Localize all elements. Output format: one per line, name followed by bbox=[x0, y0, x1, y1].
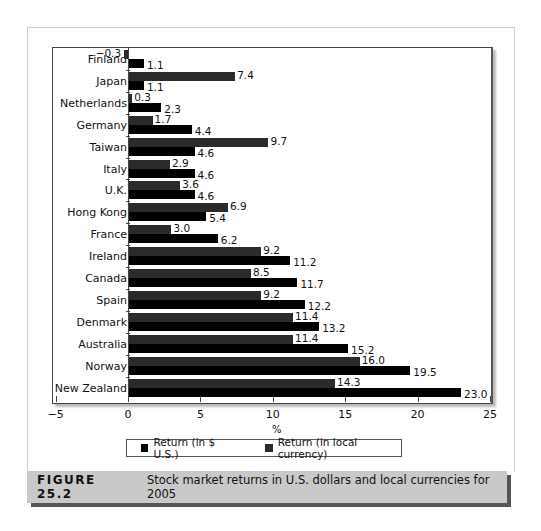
legend-item-usd: Return (in $ U.S.) bbox=[141, 436, 237, 460]
value-label-local-france: 3.0 bbox=[173, 223, 190, 233]
bar-local-australia bbox=[128, 335, 293, 344]
category-label-australia: Australia bbox=[78, 338, 127, 351]
value-label-usd-france: 6.2 bbox=[221, 235, 238, 245]
x-axis-unit: % bbox=[272, 424, 282, 435]
category-label-taiwan: Taiwan bbox=[90, 141, 127, 154]
value-label-local-new-zealand: 14.3 bbox=[337, 377, 360, 387]
value-label-local-germany: 1.7 bbox=[155, 114, 172, 124]
bar-usd-u-k bbox=[128, 190, 195, 199]
bar-usd-finland bbox=[128, 59, 144, 68]
bar-usd-italy bbox=[128, 169, 195, 178]
x-tick bbox=[200, 396, 201, 402]
legend: Return (in $ U.S.) Return (in local curr… bbox=[126, 439, 402, 457]
value-label-local-denmark: 11.4 bbox=[295, 311, 318, 321]
bar-usd-spain bbox=[128, 300, 305, 309]
x-tick-label: −5 bbox=[47, 408, 63, 421]
bar-local-germany bbox=[128, 116, 153, 125]
value-label-usd-taiwan: 4.6 bbox=[198, 148, 215, 158]
category-label-denmark: Denmark bbox=[76, 316, 127, 329]
value-label-usd-new-zealand: 23.0 bbox=[464, 389, 487, 399]
bar-local-spain bbox=[128, 291, 261, 300]
x-tick-label: 10 bbox=[266, 408, 280, 421]
category-label-france: France bbox=[90, 228, 127, 241]
value-label-usd-denmark: 13.2 bbox=[322, 323, 345, 333]
legend-swatch-local bbox=[265, 444, 272, 452]
value-label-local-norway: 16.0 bbox=[362, 355, 385, 365]
x-tick bbox=[56, 396, 57, 402]
bar-local-norway bbox=[128, 357, 360, 366]
value-label-local-taiwan: 9.7 bbox=[270, 136, 287, 146]
x-tick-label: 15 bbox=[338, 408, 352, 421]
bar-local-ireland bbox=[128, 247, 261, 256]
bar-usd-japan bbox=[128, 81, 144, 90]
value-label-local-hong-kong: 6.9 bbox=[230, 201, 247, 211]
bar-local-u-k bbox=[128, 181, 180, 190]
value-label-usd-germany: 4.4 bbox=[195, 126, 212, 136]
category-label-japan: Japan bbox=[96, 75, 127, 88]
x-tick-label: 20 bbox=[411, 408, 425, 421]
value-label-usd-norway: 19.5 bbox=[413, 367, 436, 377]
bar-local-france bbox=[128, 225, 171, 234]
value-label-local-spain: 9.2 bbox=[263, 289, 280, 299]
category-label-canada: Canada bbox=[85, 272, 127, 285]
x-tick bbox=[345, 396, 346, 402]
value-label-local-ireland: 9.2 bbox=[263, 245, 280, 255]
bar-local-italy bbox=[128, 160, 170, 169]
bar-local-taiwan bbox=[128, 138, 268, 147]
bar-usd-germany bbox=[128, 125, 192, 134]
bar-usd-canada bbox=[128, 278, 297, 287]
bar-usd-denmark bbox=[128, 322, 319, 331]
category-label-netherlands: Netherlands bbox=[60, 97, 127, 110]
value-label-local-japan: 7.4 bbox=[237, 70, 254, 80]
bar-local-japan bbox=[128, 72, 235, 81]
figure-caption: FIGURE 25.2 Stock market returns in U.S.… bbox=[27, 471, 507, 503]
category-label-norway: Norway bbox=[85, 360, 127, 373]
value-label-local-italy: 2.9 bbox=[172, 158, 189, 168]
value-label-local-australia: 11.4 bbox=[295, 333, 318, 343]
bar-usd-australia bbox=[128, 344, 348, 353]
bar-usd-hong-kong bbox=[128, 212, 206, 221]
x-tick-label: 25 bbox=[483, 408, 497, 421]
legend-label-local: Return (in local currency) bbox=[278, 436, 401, 460]
bar-usd-norway bbox=[128, 366, 410, 375]
bar-local-hong-kong bbox=[128, 203, 228, 212]
bar-local-new-zealand bbox=[128, 379, 335, 388]
legend-swatch-usd bbox=[141, 444, 148, 452]
x-tick bbox=[490, 396, 491, 402]
x-tick bbox=[273, 396, 274, 402]
bar-local-denmark bbox=[128, 313, 293, 322]
bar-usd-taiwan bbox=[128, 147, 195, 156]
category-label-u-k: U.K. bbox=[105, 184, 127, 197]
caption-text: Stock market returns in U.S. dollars and… bbox=[147, 473, 507, 501]
x-tick bbox=[418, 396, 419, 402]
category-label-spain: Spain bbox=[96, 294, 127, 307]
value-label-usd-italy: 4.6 bbox=[198, 170, 215, 180]
figure-number: FIGURE 25.2 bbox=[37, 473, 133, 501]
value-label-usd-hong-kong: 5.4 bbox=[209, 213, 226, 223]
category-label-hong-kong: Hong Kong bbox=[67, 206, 127, 219]
value-label-usd-ireland: 11.2 bbox=[293, 257, 316, 267]
value-label-local-finland: −0.3 bbox=[96, 48, 122, 58]
value-label-usd-canada: 11.7 bbox=[300, 279, 323, 289]
bar-usd-new-zealand bbox=[128, 388, 461, 397]
x-tick-label: 0 bbox=[125, 408, 132, 421]
value-label-local-canada: 8.5 bbox=[253, 267, 270, 277]
bar-local-canada bbox=[128, 269, 251, 278]
bar-usd-netherlands bbox=[128, 103, 161, 112]
zero-axis-line bbox=[128, 47, 129, 402]
category-label-new-zealand: New Zealand bbox=[55, 382, 127, 395]
bar-usd-france bbox=[128, 234, 218, 243]
bar-usd-ireland bbox=[128, 256, 290, 265]
value-label-local-u-k: 3.6 bbox=[182, 179, 199, 189]
category-label-germany: Germany bbox=[76, 119, 127, 132]
x-tick-label: 5 bbox=[197, 408, 204, 421]
value-label-usd-u-k: 4.6 bbox=[198, 191, 215, 201]
category-label-ireland: Ireland bbox=[89, 250, 127, 263]
legend-label-usd: Return (in $ U.S.) bbox=[153, 436, 237, 460]
legend-item-local: Return (in local currency) bbox=[265, 436, 401, 460]
category-label-italy: Italy bbox=[103, 163, 127, 176]
value-label-usd-finland: 1.1 bbox=[147, 60, 164, 70]
value-label-local-netherlands: 0.3 bbox=[134, 92, 151, 102]
